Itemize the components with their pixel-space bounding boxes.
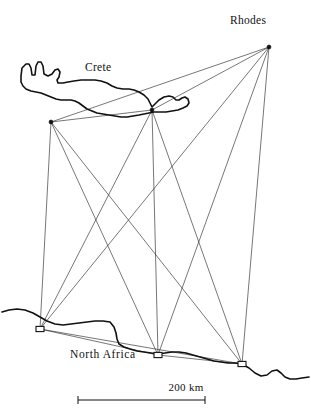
map-canvas (0, 0, 311, 411)
network-edge (152, 110, 158, 355)
node-marker-layer (36, 45, 271, 367)
label-rhodes: Rhodes (230, 14, 266, 26)
map-node-rhodes (267, 45, 271, 49)
network-edge (152, 47, 269, 110)
network-edge (40, 47, 269, 329)
map-node-crete_west (49, 120, 53, 124)
network-edge-layer (40, 47, 269, 364)
map-node-africa_west (36, 326, 44, 331)
scale-bar-label-wrap: 200 km (0, 381, 311, 393)
map-node-crete_east (150, 108, 154, 112)
network-edge (51, 122, 242, 364)
map-node-africa_mid (154, 352, 162, 357)
map-figure: Rhodes Crete North Africa 200 km (0, 0, 311, 411)
network-edge (40, 110, 152, 329)
network-edge (51, 47, 269, 122)
coastline-layer (2, 62, 309, 379)
map-node-africa_east (238, 361, 246, 366)
network-edge (158, 47, 269, 355)
network-edge (40, 122, 51, 329)
scale-bar-label: 200 km (168, 381, 203, 393)
network-edge (152, 110, 242, 364)
label-crete: Crete (85, 61, 111, 73)
label-north-africa: North Africa (70, 348, 136, 360)
scale-bar (78, 396, 205, 404)
network-edge (242, 47, 269, 364)
network-edge (51, 122, 158, 355)
